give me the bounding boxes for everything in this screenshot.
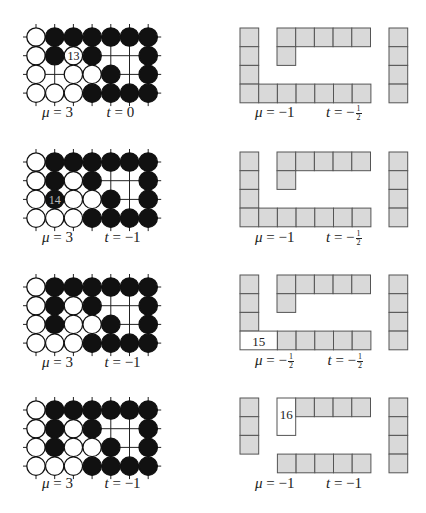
tile-top-row	[296, 398, 315, 417]
white-stone	[27, 334, 45, 352]
white-stone	[27, 420, 45, 438]
t-sign: −	[346, 104, 354, 120]
black-stone	[102, 401, 120, 419]
black-stone	[139, 401, 157, 419]
mu-value: −1	[279, 104, 295, 120]
black-stone	[139, 420, 157, 438]
white-stone	[27, 28, 45, 46]
black-stone	[102, 153, 120, 171]
equals: =	[330, 229, 346, 245]
tile-bottom-row	[296, 331, 315, 350]
tile-left-column	[240, 47, 259, 66]
t-fraction: 12	[357, 353, 363, 370]
black-stone	[46, 153, 64, 171]
tile-top-row	[314, 398, 333, 417]
black-stone	[102, 315, 120, 333]
white-stone	[27, 84, 45, 102]
black-stone	[139, 65, 157, 83]
black-stone	[120, 84, 138, 102]
tile-number-label: 16	[280, 407, 294, 422]
tile-bottom-row	[296, 84, 315, 103]
tile-left-column	[240, 189, 259, 208]
black-stone	[83, 47, 101, 65]
tiling-diagram-4: 16 μ = −1 t = −1	[213, 375, 426, 513]
t-sign: −	[348, 352, 356, 368]
white-stone	[46, 209, 64, 227]
mu-value: 3	[66, 229, 74, 245]
tile-left-column	[240, 417, 259, 436]
white-stone	[64, 438, 82, 456]
black-stone	[83, 28, 101, 46]
tile-bottom-row	[277, 331, 296, 350]
tiling-diagram-1: μ = −1 t = −12	[213, 0, 426, 125]
caption-tiling-3: μ = −12 t = −12	[255, 352, 363, 370]
tile-bottom-row	[259, 84, 278, 103]
black-stone	[64, 153, 82, 171]
white-stone	[64, 84, 82, 102]
denominator: 2	[357, 362, 363, 370]
tile-top-row	[352, 275, 371, 294]
white-stone	[83, 190, 101, 208]
tile-right-column	[389, 28, 408, 47]
white-stone	[64, 172, 82, 190]
tile-top-row	[333, 28, 352, 47]
white-stone	[83, 65, 101, 83]
tile-right-column	[389, 208, 408, 227]
tile-top-row	[352, 152, 371, 171]
equals: =	[50, 475, 66, 491]
tile-right-column	[389, 294, 408, 313]
tile-right-column	[389, 189, 408, 208]
equals: =	[50, 354, 66, 370]
tile-top-row	[277, 152, 296, 171]
tile-top-row	[333, 152, 352, 171]
white-stone	[27, 457, 45, 475]
t-value: −1	[346, 475, 362, 491]
mu-value: −1	[279, 475, 295, 491]
tile-right-column	[389, 275, 408, 294]
black-stone	[83, 84, 101, 102]
caption-go-2: μ = 3 t = −1	[42, 229, 141, 246]
black-stone	[139, 84, 157, 102]
equals: =	[50, 104, 66, 120]
go-diagram-1: 13 μ = 3 t = 0	[0, 0, 213, 125]
white-stone	[64, 209, 82, 227]
tile-number-label: 15	[252, 334, 265, 349]
tile-top-row	[352, 28, 371, 47]
tile-right-column	[389, 65, 408, 84]
black-stone	[46, 401, 64, 419]
tile-top-row	[277, 275, 296, 294]
go-diagram-3: μ = 3 t = −1	[0, 250, 213, 375]
mu-symbol: μ	[42, 104, 50, 120]
tile-left-column	[240, 294, 259, 313]
tile-left-column	[240, 312, 259, 331]
equals: =	[263, 475, 279, 491]
tiling-diagram-2: μ = −1 t = −12	[213, 125, 426, 250]
tile-right-column	[389, 435, 408, 454]
white-stone	[46, 457, 64, 475]
mu-symbol: μ	[42, 229, 50, 245]
white-stone	[27, 172, 45, 190]
caption-go-1: μ = 3 t = 0	[42, 104, 134, 121]
move-number-label: 14	[49, 193, 61, 207]
white-stone	[27, 297, 45, 315]
equals: =	[263, 104, 279, 120]
mu-symbol: μ	[255, 104, 263, 120]
go-board-4	[0, 375, 213, 513]
tile-right-column	[389, 171, 408, 190]
tile-bottom-row	[277, 84, 296, 103]
black-stone	[46, 47, 64, 65]
tile-right-column	[389, 47, 408, 66]
tile-top-row	[277, 171, 296, 190]
t-value: −1	[125, 475, 141, 491]
equals: =	[111, 104, 127, 120]
black-stone	[139, 190, 157, 208]
tile-top-row	[296, 28, 315, 47]
tile-bottom-row	[352, 331, 371, 350]
black-stone	[46, 420, 64, 438]
black-stone	[139, 334, 157, 352]
white-stone	[27, 190, 45, 208]
tile-top-row	[314, 275, 333, 294]
go-diagram-4: μ = 3 t = −1	[0, 375, 213, 513]
tile-left-column	[240, 435, 259, 454]
tiling-diagram-3: 15 μ = −12 t = −12	[213, 250, 426, 375]
